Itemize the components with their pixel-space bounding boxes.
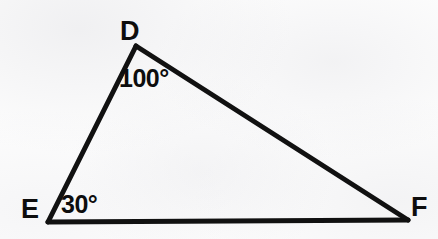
geometry-figure: D E F 100° 30° — [0, 0, 438, 239]
triangle-side-EF — [48, 220, 408, 222]
angle-measure-at-e: 30° — [61, 192, 97, 217]
vertex-label-f: F — [411, 194, 428, 221]
vertex-label-e: E — [21, 196, 39, 223]
triangle-side-FD — [136, 46, 408, 220]
angle-measure-at-d: 100° — [119, 66, 169, 91]
vertex-label-d: D — [120, 18, 140, 45]
